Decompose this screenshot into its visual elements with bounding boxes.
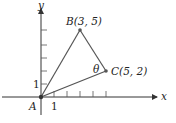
triangle-diagram: y x 1 1 A B(3, 5) C(5, 2) θ — [0, 0, 176, 123]
x-axis-label: x — [161, 90, 167, 102]
angle-theta-label: θ — [93, 63, 100, 75]
point-b — [78, 28, 82, 32]
point-a — [39, 95, 43, 99]
segment-ab — [41, 30, 80, 97]
point-c-label: C(5, 2) — [111, 65, 147, 77]
y-tick-label-1: 1 — [33, 78, 40, 90]
x-axis-ticks — [54, 91, 106, 97]
point-a-label: A — [28, 100, 37, 112]
x-tick-label-1: 1 — [51, 100, 58, 112]
y-axis-ticks — [41, 30, 47, 84]
y-axis-label: y — [37, 0, 45, 11]
point-c — [104, 69, 108, 73]
point-b-label: B(3, 5) — [65, 15, 102, 27]
